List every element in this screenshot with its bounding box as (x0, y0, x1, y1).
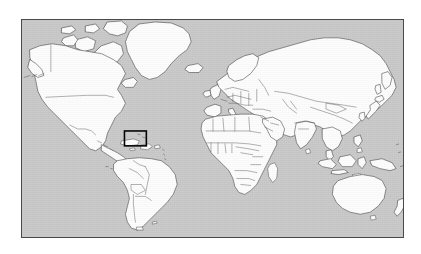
world-map-canvas (22, 20, 403, 237)
map-frame (21, 19, 404, 238)
tierra-del-fuego (136, 227, 143, 230)
philippines-southern-isles (357, 148, 362, 153)
sri-lanka-island (306, 149, 311, 154)
tasmania-island (370, 215, 376, 220)
puerto-rico-island (154, 145, 160, 149)
world-map-figure (0, 0, 421, 254)
